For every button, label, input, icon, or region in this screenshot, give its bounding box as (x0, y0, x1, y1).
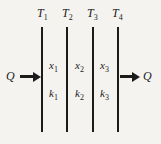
temperature-label-t3: T3 (87, 7, 98, 22)
temperature-label-t2: T2 (62, 7, 73, 22)
temperature-symbol: T (87, 6, 94, 20)
heat-symbol: Q (143, 69, 152, 83)
thickness-subscript: 1 (54, 65, 58, 74)
wall-boundary-line-4 (117, 27, 119, 132)
layer1-thickness-label: x1 (49, 60, 58, 74)
heat-flow-in-label: Q (6, 70, 15, 82)
heat-flow-out-arrow-icon (120, 75, 132, 78)
thickness-subscript: 2 (80, 65, 84, 74)
temperature-symbol: T (62, 6, 69, 20)
temperature-symbol: T (112, 6, 119, 20)
wall-boundary-line-1 (41, 27, 43, 132)
temperature-subscript: 2 (69, 13, 73, 22)
composite-wall-heat-conduction-diagram: T1 T2 T3 T4 x1 k1 x2 k2 x3 k3 Q Q (0, 0, 161, 144)
wall-boundary-line-2 (66, 27, 68, 132)
layer3-conductivity-label: k3 (100, 88, 109, 102)
thickness-subscript: 3 (105, 65, 109, 74)
heat-flow-in-arrow-icon (20, 75, 33, 78)
temperature-subscript: 4 (119, 13, 123, 22)
conductivity-subscript: 3 (105, 93, 109, 102)
heat-flow-out-label: Q (143, 70, 152, 82)
wall-boundary-line-3 (92, 27, 94, 132)
temperature-label-t4: T4 (112, 7, 123, 22)
layer2-thickness-label: x2 (75, 60, 84, 74)
temperature-subscript: 3 (94, 13, 98, 22)
temperature-subscript: 1 (44, 13, 48, 22)
temperature-label-t1: T1 (37, 7, 48, 22)
layer1-conductivity-label: k1 (49, 88, 58, 102)
layer2-conductivity-label: k2 (75, 88, 84, 102)
temperature-symbol: T (37, 6, 44, 20)
conductivity-subscript: 2 (80, 93, 84, 102)
layer3-thickness-label: x3 (100, 60, 109, 74)
heat-symbol: Q (6, 69, 15, 83)
conductivity-subscript: 1 (54, 93, 58, 102)
